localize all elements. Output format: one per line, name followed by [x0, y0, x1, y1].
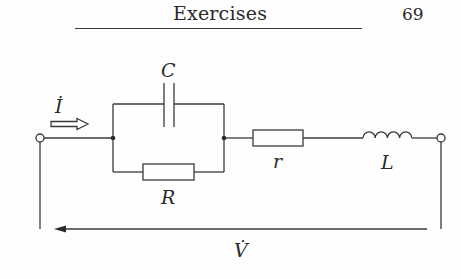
left-terminal	[36, 134, 44, 142]
junction-left	[111, 136, 116, 141]
label-current: İ	[54, 95, 63, 117]
resistor-r-symbol	[253, 130, 303, 146]
resistor-R-symbol	[143, 164, 194, 180]
label-capacitor: C	[161, 59, 176, 81]
inductor-L-symbol	[363, 132, 412, 138]
textbook-page: Exercises 69	[0, 0, 461, 279]
label-inductor: L	[380, 151, 394, 173]
capacitor-symbol	[164, 83, 174, 127]
label-voltage: V̇	[234, 239, 250, 261]
junction-right	[222, 136, 227, 141]
label-resistor-R: R	[160, 186, 175, 208]
label-resistor-r: r	[273, 150, 284, 172]
voltage-arrowhead-icon	[54, 226, 66, 233]
current-arrow-icon	[51, 119, 88, 130]
circuit-diagram: İ C R r L V̇	[0, 0, 461, 279]
right-terminal	[437, 134, 445, 142]
